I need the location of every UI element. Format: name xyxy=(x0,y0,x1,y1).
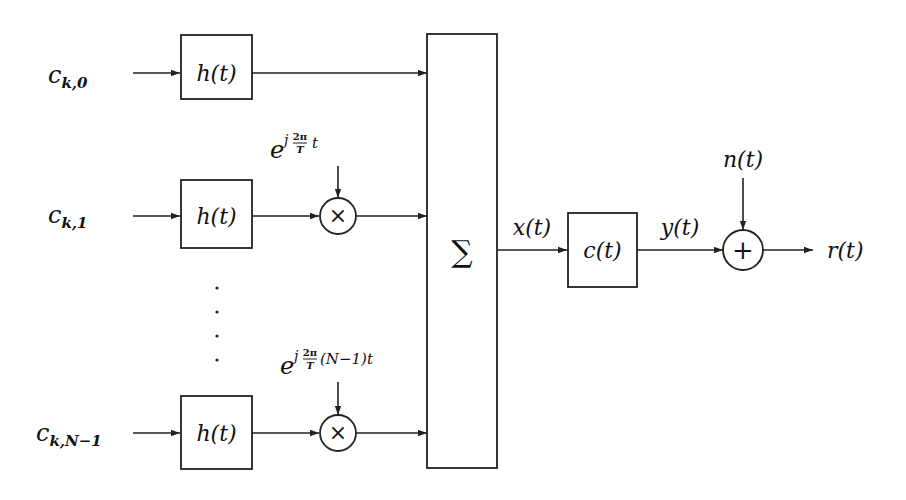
svg-text:2π: 2π xyxy=(303,347,317,358)
svg-text:e: e xyxy=(270,136,284,164)
vertical-ellipsis xyxy=(215,286,218,361)
ofdm-block-diagram: ck,0 h(t) ck,1 h(t) e j 2π T t × xyxy=(0,0,906,500)
signal-x-label: x(t) xyxy=(513,215,551,240)
svg-text:e: e xyxy=(280,352,294,380)
filter-label-0: h(t) xyxy=(196,61,236,86)
svg-text:T: T xyxy=(306,360,315,371)
summer-symbol: ∑ xyxy=(451,234,473,269)
branch-0: ck,0 h(t) xyxy=(48,35,427,99)
branch-1: ck,1 h(t) e j 2π T t × xyxy=(48,131,427,248)
summer: ∑ xyxy=(427,34,497,468)
svg-text:2π: 2π xyxy=(293,131,307,142)
signal-r-label: r(t) xyxy=(827,238,864,263)
svg-text:T: T xyxy=(296,144,305,155)
mixer-symbol-1: × xyxy=(329,203,347,228)
branch-n-minus-1: ck,N−1 h(t) e j 2π T (N−1)t × xyxy=(36,347,427,469)
filter-label-n-minus-1: h(t) xyxy=(196,421,236,446)
channel: c(t) xyxy=(568,213,637,287)
channel-label: c(t) xyxy=(583,238,621,263)
signal-y-label: y(t) xyxy=(660,215,699,240)
svg-text:(N−1)t: (N−1)t xyxy=(320,350,374,368)
input-label-n-minus-1: ck,N−1 xyxy=(36,419,102,450)
adder: + xyxy=(723,230,763,270)
carrier-label-n-minus-1: e j 2π T (N−1)t xyxy=(280,347,374,380)
svg-text:t: t xyxy=(312,134,319,152)
input-label-1: ck,1 xyxy=(48,201,88,232)
mixer-symbol-n-minus-1: × xyxy=(329,420,347,445)
filter-label-1: h(t) xyxy=(196,204,236,229)
adder-symbol: + xyxy=(732,235,754,265)
signal-n-label: n(t) xyxy=(723,147,763,172)
carrier-label-1: e j 2π T t xyxy=(270,131,319,164)
input-label-0: ck,0 xyxy=(48,61,88,92)
